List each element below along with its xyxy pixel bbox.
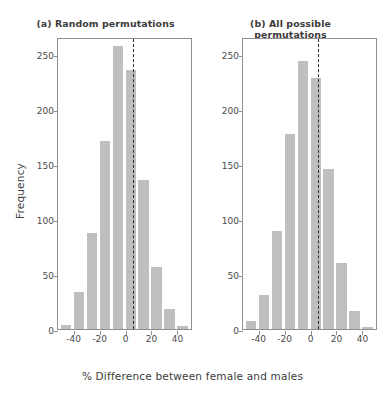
histogram-bar	[151, 267, 162, 329]
histogram-bar	[323, 169, 334, 329]
histogram-bar	[298, 61, 309, 329]
plot-area-a: 050100150200250-40-2002040	[57, 38, 192, 330]
y-axis-tick-label: 150	[217, 161, 239, 170]
y-axis-tick-mark	[239, 166, 243, 167]
plot-area-b: 050100150200250-40-2002040	[242, 38, 377, 330]
bar-group-a	[58, 39, 191, 329]
histogram-bar	[87, 233, 98, 329]
y-axis-tick-label: 50	[32, 271, 54, 280]
y-axis-tick-label: 100	[217, 216, 239, 225]
y-axis-tick-mark	[239, 221, 243, 222]
panel-all-permutations: (b) All possible permutations 0501001502…	[185, 0, 385, 399]
x-axis-tick-label: 40	[347, 335, 377, 344]
y-axis-tick-mark	[239, 276, 243, 277]
y-axis-tick-mark	[54, 221, 58, 222]
y-axis-tick-label: 0	[32, 327, 54, 336]
histogram-bar	[336, 263, 347, 329]
y-axis-tick-mark	[54, 111, 58, 112]
panel-random-permutations: (a) Random permutations 050100150200250-…	[0, 0, 200, 399]
x-axis-tick-mark	[311, 331, 312, 335]
histogram-bar	[259, 295, 270, 329]
observed-difference-line	[318, 39, 319, 329]
y-axis-tick-label: 250	[217, 51, 239, 60]
y-axis-tick-label: 250	[32, 51, 54, 60]
histogram-bar	[164, 309, 175, 329]
x-axis-tick-mark	[259, 331, 260, 335]
x-axis-tick-mark	[126, 331, 127, 335]
observed-difference-line	[133, 39, 134, 329]
histogram-bar	[246, 321, 257, 329]
histogram-bar	[349, 311, 360, 329]
y-axis-tick-mark	[54, 56, 58, 57]
histogram-bar	[74, 292, 85, 329]
x-axis-tick-mark	[151, 331, 152, 335]
histogram-bar	[285, 134, 296, 329]
y-axis-tick-mark	[54, 276, 58, 277]
bar-group-b	[243, 39, 376, 329]
histogram-bar	[311, 78, 322, 329]
histogram-bar	[61, 325, 72, 329]
x-axis-tick-mark	[100, 331, 101, 335]
histogram-bar	[272, 231, 283, 329]
y-axis-tick-mark	[239, 56, 243, 57]
histogram-bar	[100, 141, 111, 329]
y-axis-tick-mark	[239, 111, 243, 112]
x-axis-tick-mark	[74, 331, 75, 335]
y-axis-tick-label: 150	[32, 161, 54, 170]
y-axis-tick-mark	[54, 166, 58, 167]
histogram-bar	[138, 180, 149, 329]
y-axis-tick-mark	[239, 331, 243, 332]
histogram-bar	[126, 70, 137, 329]
y-axis-tick-mark	[54, 331, 58, 332]
y-axis-tick-label: 0	[217, 327, 239, 336]
x-axis-tick-mark	[362, 331, 363, 335]
y-axis-tick-label: 200	[32, 106, 54, 115]
figure-histogram-permutations: Frequency (a) Random permutations 050100…	[0, 0, 385, 399]
y-axis-tick-label: 100	[32, 216, 54, 225]
x-axis-label: % Difference between female and males	[0, 370, 385, 382]
x-axis-tick-mark	[336, 331, 337, 335]
x-axis-tick-mark	[285, 331, 286, 335]
x-axis-tick-mark	[177, 331, 178, 335]
histogram-bar	[113, 46, 124, 329]
panel-b-title: (b) All possible permutations	[213, 18, 368, 40]
panel-a-title: (a) Random permutations	[28, 18, 183, 29]
y-axis-tick-label: 50	[217, 271, 239, 280]
y-axis-tick-label: 200	[217, 106, 239, 115]
histogram-bar	[362, 327, 373, 329]
